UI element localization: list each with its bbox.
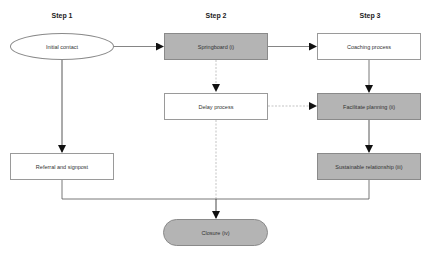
node-coaching-process-label: Coaching process [347, 44, 391, 50]
node-springboard: Springboard (i) [164, 33, 268, 60]
edge-referral-to-merge [62, 180, 369, 199]
node-delay-process-label: Delay process [199, 104, 234, 110]
node-facilitate-planning: Facilitate planning (ii) [317, 93, 421, 120]
node-facilitate-planning-label: Facilitate planning (ii) [343, 104, 395, 110]
step-1-label: Step 1 [51, 12, 72, 19]
node-coaching-process: Coaching process [317, 33, 421, 60]
node-referral-signpost: Referral and signpost [10, 153, 114, 180]
node-initial-contact-label: Initial contact [46, 44, 78, 50]
node-springboard-label: Springboard (i) [198, 44, 234, 50]
step-2-label: Step 2 [205, 12, 226, 19]
node-sustainable-relationship-label: Sustainable relationship (iii) [335, 164, 402, 170]
node-referral-signpost-label: Referral and signpost [36, 164, 88, 170]
node-closure: Closure (iv) [163, 219, 268, 246]
node-sustainable-relationship: Sustainable relationship (iii) [317, 153, 421, 180]
node-closure-label: Closure (iv) [201, 230, 229, 236]
node-delay-process: Delay process [164, 93, 268, 120]
node-initial-contact: Initial contact [10, 33, 114, 60]
step-3-label: Step 3 [359, 12, 380, 19]
